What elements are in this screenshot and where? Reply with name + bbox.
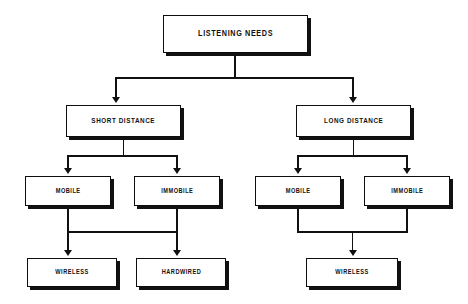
- connector-long-to-immobile: [406, 155, 408, 169]
- node-long-mobile[interactable]: MOBILE: [255, 176, 341, 206]
- connector-short-stem: [123, 140, 125, 156]
- node-listening-needs-label: LISTENING NEEDS: [198, 30, 273, 38]
- node-short-immobile-label: IMMOBILE: [161, 188, 193, 194]
- connector-short-to-mobile: [67, 155, 69, 169]
- node-short-wireless-label: WIRELESS: [55, 269, 88, 275]
- node-long-wireless[interactable]: WIRELESS: [306, 258, 398, 287]
- node-long-immobile[interactable]: IMMOBILE: [364, 176, 450, 206]
- connector-long-merge-stem: [352, 231, 354, 251]
- arrowhead-to-short-immobile: [173, 168, 181, 174]
- connector-short-crossbar: [67, 231, 178, 233]
- connector-short-bus: [67, 155, 178, 157]
- node-short-hardwired-label: HARDWIRED: [161, 269, 201, 275]
- connector-long-mobile-drop: [297, 209, 299, 232]
- node-short-immobile[interactable]: IMMOBILE: [134, 176, 220, 206]
- node-long-distance[interactable]: LONG DISTANCE: [296, 105, 411, 137]
- connector-short-immobile-drop: [176, 209, 178, 251]
- node-long-distance-label: LONG DISTANCE: [324, 117, 383, 124]
- node-long-immobile-label: IMMOBILE: [391, 188, 423, 194]
- node-short-distance[interactable]: SHORT DISTANCE: [66, 105, 181, 137]
- node-long-wireless-label: WIRELESS: [335, 269, 368, 275]
- arrowhead-to-long-immobile: [403, 168, 411, 174]
- node-short-distance-label: SHORT DISTANCE: [92, 117, 156, 124]
- arrowhead-to-short-hardwired: [173, 250, 181, 256]
- connector-short-mobile-drop: [67, 209, 69, 251]
- connector-root-to-short: [115, 77, 117, 98]
- connector-long-to-mobile: [297, 155, 299, 169]
- arrowhead-to-short-distance: [112, 97, 120, 103]
- node-long-mobile-label: MOBILE: [286, 188, 311, 194]
- connector-long-stem: [353, 140, 355, 156]
- connector-short-to-immobile: [176, 155, 178, 169]
- node-short-mobile-label: MOBILE: [56, 188, 81, 194]
- node-short-mobile[interactable]: MOBILE: [25, 176, 111, 206]
- connector-long-immobile-drop: [406, 209, 408, 232]
- arrowhead-to-long-wireless: [349, 250, 357, 256]
- connector-root-to-long: [352, 77, 354, 98]
- node-short-wireless[interactable]: WIRELESS: [27, 258, 117, 287]
- arrowhead-to-long-mobile: [294, 168, 302, 174]
- connector-root-bus: [115, 77, 354, 79]
- arrowhead-to-short-mobile: [64, 168, 72, 174]
- connector-long-bus: [297, 155, 408, 157]
- arrowhead-to-long-distance: [349, 97, 357, 103]
- node-short-hardwired[interactable]: HARDWIRED: [136, 258, 226, 287]
- connector-root-stem: [234, 56, 236, 78]
- node-listening-needs[interactable]: LISTENING NEEDS: [163, 15, 308, 53]
- arrowhead-to-short-wireless: [64, 250, 72, 256]
- flowchart-canvas: LISTENING NEEDS SHORT DISTANCE LONG DIST…: [0, 0, 468, 304]
